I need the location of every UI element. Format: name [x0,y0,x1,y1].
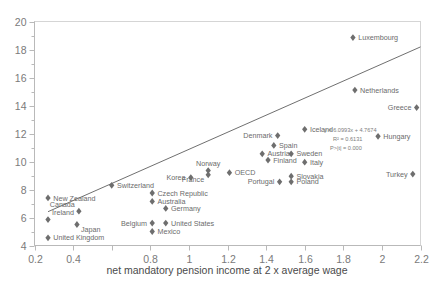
x-axis-ticks [36,246,422,251]
x-tick-label: 1.2 [221,253,236,265]
data-point-marker [277,178,282,185]
data-point-label: Portugal [248,177,275,186]
y-tick-label: 16 [15,72,27,84]
data-point-marker [45,216,50,223]
data-point-label: Finland [273,156,297,165]
data-point-marker [150,228,155,235]
y-axis-ticks [30,23,35,247]
data-point-label: Norway [196,159,221,168]
data-point-label: Czech Republic [157,189,208,198]
data-point-marker [150,190,155,197]
data-point-marker [163,220,168,227]
data-point-label: Belgium [121,219,147,228]
data-point-label: Italy [310,158,324,167]
data-point-marker [302,126,307,133]
x-tick-label: 1.6 [298,253,313,265]
y-tick-label: 6 [21,212,27,224]
data-point-marker [410,171,415,178]
data-point-marker [275,132,280,139]
data-point-label: Ireland [52,208,74,217]
y-axis-labels: 468101214161820 [15,16,27,252]
y-tick-label: 14 [15,100,27,112]
data-point-label: Canada [50,200,75,209]
data-point-label: Turkey [386,170,408,179]
x-tick-label: 1.8 [336,253,351,265]
y-tick-label: 8 [21,184,27,196]
data-point-marker [414,104,419,111]
data-point-label: Spain [279,141,297,150]
y-tick-label: 4 [21,240,27,252]
data-point-label: Switzerland [117,181,154,190]
data-point-marker [260,150,265,157]
data-point-label: Germany [171,204,201,213]
data-point-label: OECD [235,168,256,177]
data-point-label: France [182,175,204,184]
data-point-marker [150,220,155,227]
regression-pvalue-text: P>|t| = 0.000 [330,145,362,151]
data-point-label: Greece [388,103,412,112]
data-point-label: Mexico [157,227,180,236]
x-tick-label: 0.4 [66,253,81,265]
chart-canvas: 468101214161820 0.20.40.811.21.41.61.822… [0,0,435,291]
data-point-label: Hungary [383,132,411,141]
x-tick-label: 0.8 [143,253,158,265]
y-tick-label: 20 [15,16,27,28]
data-point-label: Denmark [243,131,273,140]
x-tick-label: 0.2 [28,253,43,265]
y-tick-label: 12 [15,128,27,140]
data-point-marker [76,208,81,215]
regression-equation-text: y = 6.0993x + 4.7674 [324,127,377,133]
y-tick-label: 10 [15,156,27,168]
regression-r-squared-text: R² = 0.6131 [333,136,362,142]
data-point-marker [289,178,294,185]
data-point-marker [352,87,357,94]
data-point-marker [302,159,307,166]
data-point-label: United Kingdom [53,233,104,242]
data-point-label: Netherlands [360,86,399,95]
x-tick-label: 2 [380,253,386,265]
data-point-label: Poland [296,177,318,186]
x-tick-label: 2.2 [414,253,429,265]
x-axis-labels: 0.20.40.811.21.41.61.822.2 [28,253,429,265]
data-point-marker [45,234,50,241]
data-point-marker [271,142,276,149]
data-point-marker [74,221,79,228]
data-point-marker [206,171,211,178]
data-point-marker [375,133,380,140]
data-points [45,34,419,241]
plot-frame [35,22,421,246]
data-point-marker [227,169,232,176]
scatter-chart: 468101214161820 0.20.40.811.21.41.61.822… [0,0,435,291]
data-point-marker [350,34,355,41]
x-tick-label: 1 [187,253,193,265]
data-point-label: Luxembourg [358,33,398,42]
data-point-label: United States [171,219,215,228]
y-tick-label: 18 [15,44,27,56]
x-tick-label: 1.4 [259,253,274,265]
data-point-label: Japan [81,225,101,234]
data-point-marker [150,198,155,205]
x-axis-title: net mandatory pension income at 2 x aver… [106,264,347,276]
data-point-marker [163,205,168,212]
